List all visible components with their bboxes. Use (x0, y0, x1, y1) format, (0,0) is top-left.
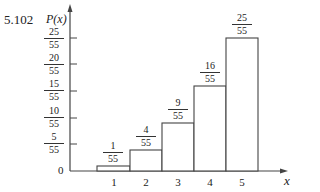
x-tick-label: 5 (235, 176, 249, 188)
x-tick-label: 4 (203, 176, 217, 188)
y-axis-arrow-icon (68, 4, 73, 12)
y-zero-label: 0 (58, 164, 64, 176)
bar-value-label: 155 (103, 141, 123, 164)
bar-4 (194, 86, 226, 171)
x-tick-label: 1 (107, 176, 121, 188)
bar-value-label: 955 (168, 98, 188, 121)
bar-value-label: 2555 (232, 13, 252, 36)
y-tick-label: 1055 (44, 106, 64, 129)
y-tick-label: 555 (44, 132, 64, 155)
y-tick-label: 2055 (44, 53, 64, 76)
bar-1 (97, 166, 130, 171)
bar-2 (130, 150, 162, 171)
y-tick-label: 2555 (44, 27, 64, 50)
x-tick-label: 3 (171, 176, 185, 188)
y-ticks (70, 38, 77, 144)
bar-5 (226, 38, 258, 171)
x-tick-label: 2 (139, 176, 153, 188)
bar-3 (162, 123, 194, 171)
x-axis-arrow-icon (280, 169, 288, 174)
bar-value-label: 455 (136, 125, 156, 148)
y-tick-label: 1555 (44, 79, 64, 102)
bar-value-label: 1655 (200, 61, 220, 84)
